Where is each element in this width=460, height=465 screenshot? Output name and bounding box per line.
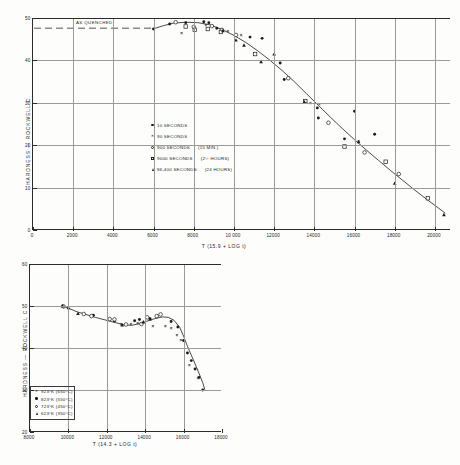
gridline-vertical: [113, 18, 114, 229]
y-axis-tick: [33, 145, 37, 146]
top-chart-y-axis-title: HARDNESS — ROCKWELL C: [25, 98, 31, 185]
x-axis-tick: [395, 227, 396, 231]
x-axis-tick: [194, 227, 195, 231]
x-axis-tick-label: 14000: [307, 233, 321, 238]
y-axis-tick-label: 10: [22, 185, 31, 190]
legend-border: [30, 386, 75, 420]
svg-text:×: ×: [129, 322, 132, 327]
legend-marker-cross-icon: ×: [148, 134, 157, 138]
legend-item-note: (24 HOURS): [205, 167, 232, 172]
x-axis-tick: [184, 429, 185, 433]
gridline-horizontal: [33, 145, 450, 146]
x-axis-tick: [435, 227, 436, 231]
y-axis-tick-label: 30: [19, 388, 28, 393]
legend-item-note: (15 MIN.): [198, 145, 219, 150]
x-axis-tick: [274, 227, 275, 231]
legend-item: ×90 SECONDS: [148, 131, 232, 142]
legend-item-label: 86,400 SECONDS: [157, 167, 197, 172]
legend-item-label: 9000 SECONDS: [157, 156, 193, 161]
gridline-vertical: [274, 18, 275, 229]
gridline-horizontal: [33, 60, 450, 61]
gridline-vertical: [395, 18, 396, 229]
legend-item: 900 SECONDS(15 MIN.): [148, 142, 232, 153]
y-axis-tick-label: 20: [19, 430, 28, 435]
plot-top-border: [30, 264, 221, 265]
bottom-chart-x-axis-title: T (14.3 + LOG t): [93, 441, 137, 447]
x-axis-tick-label: 4000: [107, 233, 118, 238]
x-axis-tick-label: 16000: [347, 233, 361, 238]
legend-item-note: (2½ HOURS): [201, 156, 230, 161]
gridline-horizontal: [33, 103, 450, 104]
x-axis-tick-label: 12000: [266, 233, 280, 238]
legend-item-label: 900 SECONDS: [157, 145, 190, 150]
x-axis-tick-label: 6000: [147, 233, 158, 238]
y-axis-tick-label: 50: [19, 304, 28, 309]
y-axis-tick-label: 20: [22, 143, 31, 148]
svg-text:×: ×: [188, 363, 191, 368]
legend-marker-filled-triangle-icon: [148, 167, 157, 171]
svg-text:×: ×: [136, 321, 139, 326]
legend-item-label: 90 SECONDS: [157, 134, 187, 139]
x-axis-tick: [222, 429, 223, 433]
x-axis-tick-label: 10 000: [225, 233, 240, 238]
gridline-horizontal: [33, 188, 450, 189]
y-axis-tick-label: 40: [22, 58, 31, 63]
y-axis-tick: [33, 188, 37, 189]
y-axis-tick: [33, 60, 37, 61]
y-axis-tick-label: 40: [19, 346, 28, 351]
x-axis-tick: [314, 227, 315, 231]
svg-text:×: ×: [170, 326, 173, 331]
top-chart-plot-area: ×××××××: [32, 18, 450, 230]
svg-text:×: ×: [180, 31, 183, 36]
svg-text:×: ×: [227, 29, 230, 34]
gridline-horizontal: [30, 348, 221, 349]
x-axis-tick-label: 18000: [214, 435, 228, 440]
legend-marker-open-square-icon: [148, 156, 157, 160]
legend-item: 9000 SECONDS(2½ HOURS): [148, 153, 232, 164]
top-chart-data-layer: ×××××××: [33, 18, 451, 230]
x-axis-tick-label: 16000: [176, 435, 190, 440]
gridline-vertical: [314, 18, 315, 229]
svg-text:×: ×: [176, 333, 179, 338]
gridline-vertical: [435, 18, 436, 229]
x-axis-tick: [154, 227, 155, 231]
x-axis-tick: [145, 429, 146, 433]
x-axis-tick-label: 8000: [24, 435, 35, 440]
legend-marker-open-circle-icon: [148, 145, 157, 149]
gridline-vertical: [234, 18, 235, 229]
x-axis-tick: [107, 429, 108, 433]
top-chart-legend: 10 SECONDS×90 SECONDS900 SECONDS(15 MIN.…: [148, 120, 232, 175]
y-axis-tick: [33, 230, 37, 231]
legend-marker-filled-circle-icon: [148, 123, 157, 127]
x-axis-tick-label: 0: [31, 233, 34, 238]
svg-text:×: ×: [179, 338, 182, 343]
x-axis-tick: [234, 227, 235, 231]
x-axis-tick-label: 20000: [427, 233, 441, 238]
legend-item: 10 SECONDS: [148, 120, 232, 131]
svg-text:×: ×: [240, 33, 243, 38]
svg-text:×: ×: [152, 324, 155, 329]
y-axis-tick-label: 30: [22, 100, 31, 105]
y-axis-tick: [30, 306, 34, 307]
gridline-vertical: [355, 18, 356, 229]
legend-item-label: 10 SECONDS: [157, 123, 187, 128]
svg-text:×: ×: [164, 324, 167, 329]
top-chart: HARDNESS — ROCKWELL C ××××××× AS QUENCHE…: [0, 0, 460, 258]
x-axis-tick-label: 10000: [61, 435, 75, 440]
bottom-chart: HARDNESS — ROCKWELL C ×××××××××× T (14.3…: [0, 258, 460, 465]
x-axis-tick: [68, 429, 69, 433]
x-axis-tick-label: 14000: [137, 435, 151, 440]
x-axis-tick-label: 2000: [67, 233, 78, 238]
top-chart-x-axis-title: T (15.9 + LOG t): [202, 243, 246, 249]
x-axis-tick-label: 8000: [187, 233, 198, 238]
y-axis-tick: [30, 432, 34, 433]
y-axis-tick: [33, 103, 37, 104]
x-axis-tick: [113, 227, 114, 231]
as-quenched-annotation: AS QUENCHED: [76, 20, 113, 25]
legend-item: 86,400 SECONDS(24 HOURS): [148, 164, 232, 175]
gridline-vertical: [73, 18, 74, 229]
y-axis-tick-label: 60: [19, 262, 28, 267]
x-axis-tick-label: 12000: [99, 435, 113, 440]
y-axis-tick-label: 0: [22, 228, 31, 233]
bottom-chart-y-axis-title: HARDNESS — ROCKWELL C: [22, 310, 28, 397]
